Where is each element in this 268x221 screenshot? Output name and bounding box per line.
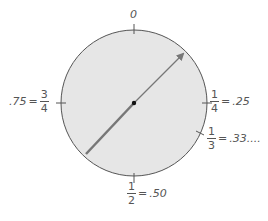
label-one-half: 12=.50 bbox=[127, 181, 167, 206]
center-dot bbox=[132, 101, 136, 105]
equals-sign: = bbox=[138, 187, 147, 200]
decimal-value: .25 bbox=[232, 95, 250, 108]
equals-sign: = bbox=[221, 95, 230, 108]
fraction: 12 bbox=[127, 181, 136, 206]
label-zero: 0 bbox=[130, 9, 137, 20]
equals-sign: = bbox=[218, 132, 227, 145]
numerator: 1 bbox=[210, 89, 219, 102]
denominator: 4 bbox=[41, 102, 48, 114]
denominator: 4 bbox=[211, 102, 218, 114]
fraction: 34 bbox=[40, 89, 49, 114]
numerator: 1 bbox=[207, 126, 216, 139]
decimal-value: .50 bbox=[149, 187, 167, 200]
denominator: 3 bbox=[208, 139, 215, 151]
denominator: 2 bbox=[128, 194, 135, 206]
label-three-quarters: .75=34 bbox=[9, 89, 49, 114]
numerator: 3 bbox=[40, 89, 49, 102]
label-one-quarter: 14=.25 bbox=[210, 89, 250, 114]
decimal-value: .75 bbox=[9, 95, 27, 108]
equals-sign: = bbox=[29, 95, 38, 108]
decimal-value: .33.... bbox=[229, 132, 260, 145]
fraction: 14 bbox=[210, 89, 219, 114]
label-one-third: 13=.33.... bbox=[207, 126, 261, 151]
fraction: 13 bbox=[207, 126, 216, 151]
numerator: 1 bbox=[127, 181, 136, 194]
